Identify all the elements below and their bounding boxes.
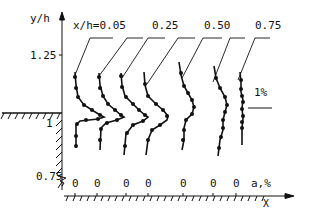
x-axis-arrow-icon bbox=[285, 194, 294, 199]
series-label-0-05: x/h=0.05 bbox=[73, 20, 126, 31]
zero-marker: 0 bbox=[72, 178, 79, 189]
profile-2 bbox=[99, 73, 124, 150]
zero-marker: 0 bbox=[94, 178, 101, 189]
ytick-label-0-75: 0.75 bbox=[36, 171, 63, 182]
profile-5 bbox=[179, 62, 194, 150]
profile-points bbox=[73, 71, 245, 150]
x-position-marker: X bbox=[263, 199, 269, 209]
zero-marker: 0 bbox=[180, 178, 187, 189]
series-label-0-50: 0.50 bbox=[204, 20, 231, 31]
x-axis-label: a,% bbox=[251, 178, 271, 189]
y-axis-arrow-icon bbox=[60, 12, 65, 20]
series-label-0-75: 0.75 bbox=[255, 20, 282, 31]
floor-hatch bbox=[66, 196, 264, 201]
ytick-label-1: 1 bbox=[46, 118, 53, 129]
scale-bar-label: 1% bbox=[254, 87, 267, 98]
zero-marker: 0 bbox=[233, 178, 240, 189]
zero-marker: 0 bbox=[145, 178, 152, 189]
zero-marker: 0 bbox=[210, 178, 217, 189]
ytick-label-1-25: 1.25 bbox=[30, 50, 57, 61]
series-label-0-25: 0.25 bbox=[152, 20, 179, 31]
y-axis-label: y/h bbox=[30, 13, 50, 24]
zero-marker: 0 bbox=[123, 178, 130, 189]
profile-4 bbox=[144, 72, 168, 155]
